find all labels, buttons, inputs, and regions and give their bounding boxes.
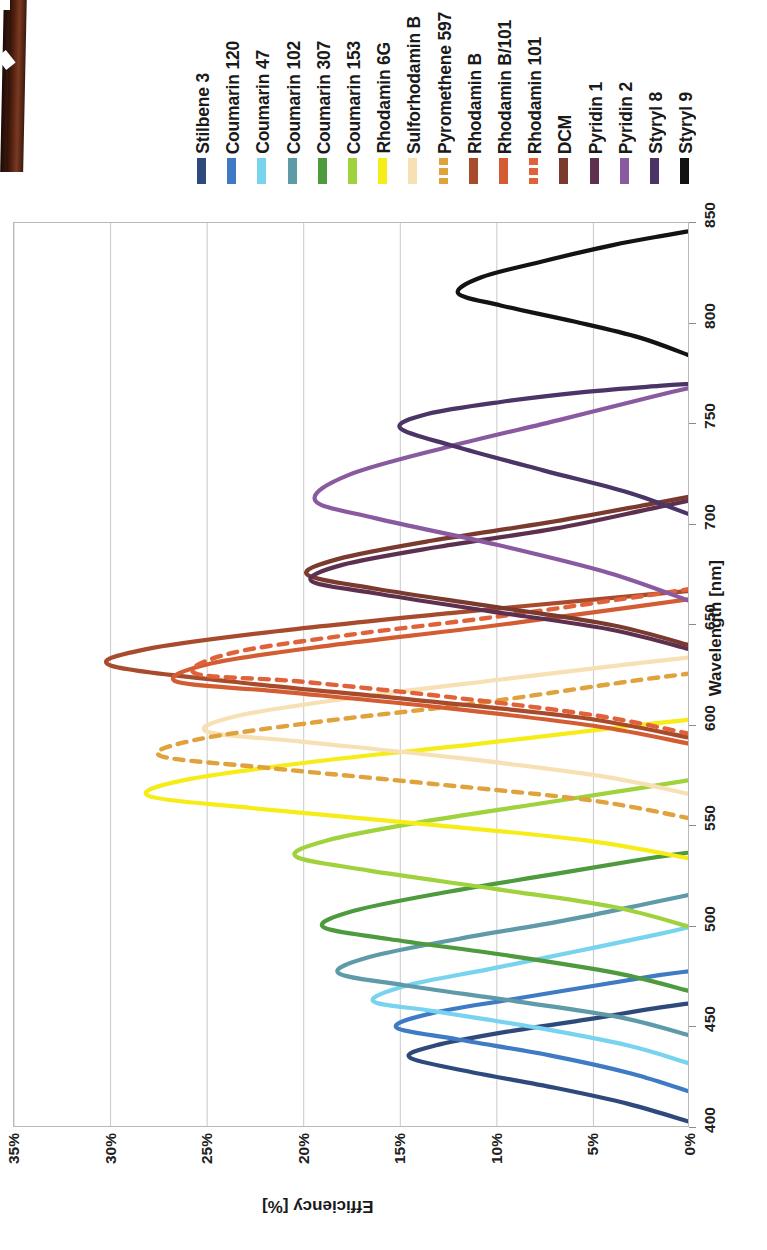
legend-swatch-dash	[439, 168, 448, 175]
series-line	[310, 501, 689, 650]
legend-label: Coumarin 153	[339, 41, 369, 154]
legend-item[interactable]: DCM	[550, 0, 580, 190]
y-axis-tick-label: 10%	[488, 1133, 506, 1164]
legend-color-swatch	[288, 158, 297, 184]
legend-item[interactable]: Pyridin 1	[581, 0, 611, 190]
x-axis-tick-label: 500	[701, 906, 719, 932]
legend-label: Stilbene 3	[188, 73, 218, 154]
legend-color-swatch	[590, 158, 599, 184]
legend-label: Rhodamin B/101	[490, 20, 520, 154]
legend-color-swatch	[408, 158, 417, 184]
legend-color-swatch	[469, 158, 478, 184]
x-axis-tick-label: 450	[701, 1006, 719, 1032]
y-axis-tick-label: 5%	[584, 1133, 602, 1155]
x-axis-tick-label: 700	[701, 504, 719, 530]
y-axis-tick-label: 20%	[295, 1133, 313, 1164]
legend-color-swatch	[529, 158, 538, 184]
legend-item[interactable]: Coumarin 102	[279, 0, 309, 190]
legend-label: Coumarin 307	[309, 41, 339, 154]
x-axis-tick-label: 650	[701, 604, 719, 630]
legend-item[interactable]: Coumarin 47	[248, 0, 278, 190]
legend-label: Rhodamin 6G	[369, 42, 399, 154]
legend-item[interactable]: Coumarin 307	[309, 0, 339, 190]
legend-item[interactable]: Sulforhodamin B	[399, 0, 429, 190]
x-axis-tick-mark	[689, 423, 696, 424]
legend-label: Coumarin 102	[279, 41, 309, 154]
legend-color-swatch	[197, 158, 206, 184]
legend-swatch-dash	[529, 178, 538, 184]
x-axis-tick-label: 400	[701, 1107, 719, 1133]
x-axis-tick-mark	[689, 1026, 696, 1027]
x-axis-tick-mark	[689, 624, 696, 625]
legend-label: Coumarin 120	[218, 41, 248, 154]
plot-svg	[14, 223, 689, 1127]
legend-item[interactable]: Rhodamin 101	[520, 0, 550, 190]
legend-item[interactable]: Styryl 8	[641, 0, 671, 190]
legend-color-swatch	[680, 158, 689, 184]
x-axis-tick-label: 850	[701, 202, 719, 228]
series-line	[146, 720, 689, 859]
scan-edge-artifact	[0, 0, 46, 172]
legend-label: Styryl 8	[641, 92, 671, 154]
x-axis-tick-mark	[689, 926, 696, 927]
legend-label: Rhodamin 101	[520, 37, 550, 154]
legend-item[interactable]: Rhodamin 6G	[369, 0, 399, 190]
legend-item[interactable]: Rhodamin B/101	[490, 0, 520, 190]
legend-color-swatch	[227, 158, 236, 184]
y-axis-tick-label: 35%	[5, 1133, 23, 1164]
x-axis-tick-mark	[689, 524, 696, 525]
legend-label: Rhodamin B	[460, 53, 490, 154]
legend-color-swatch	[559, 158, 568, 184]
scan-artifact-band	[6, 0, 27, 172]
legend-color-swatch	[650, 158, 659, 184]
legend-label: Coumarin 47	[248, 50, 278, 154]
legend-color-swatch	[348, 158, 357, 184]
y-axis-tick-label: 25%	[198, 1133, 216, 1164]
legend-item[interactable]: Coumarin 120	[218, 0, 248, 190]
legend-color-swatch	[499, 158, 508, 184]
legend-color-swatch	[257, 158, 266, 184]
legend-item[interactable]: Coumarin 153	[339, 0, 369, 190]
scan-artifact-corner	[0, 0, 10, 10]
legend-swatch-dash	[439, 178, 448, 184]
x-axis-tick-label: 750	[701, 403, 719, 429]
x-axis-tick-label: 800	[701, 303, 719, 329]
x-axis-tick-mark	[689, 725, 696, 726]
x-axis-tick-mark	[689, 323, 696, 324]
legend-item[interactable]: Pyromethene 597	[430, 0, 460, 190]
x-axis-tick-mark	[689, 825, 696, 826]
y-axis-tick-label: 30%	[102, 1133, 120, 1164]
chart-legend: Stilbene 3Coumarin 120Coumarin 47Coumari…	[188, 0, 708, 190]
x-axis-tick-mark	[689, 222, 696, 223]
legend-color-swatch	[620, 158, 629, 184]
y-axis-tick-label: 15%	[391, 1133, 409, 1164]
legend-item[interactable]: Pyridin 2	[611, 0, 641, 190]
series-line	[157, 673, 689, 818]
y-axis-title: Efficiency [%]	[262, 1196, 373, 1216]
x-axis-tick-mark	[689, 1127, 696, 1128]
legend-color-swatch	[439, 158, 448, 184]
legend-swatch-dash	[529, 158, 538, 165]
legend-color-swatch	[378, 158, 387, 184]
legend-label: Pyridin 2	[611, 82, 641, 154]
series-line	[294, 780, 689, 927]
x-axis-tick-label: 550	[701, 805, 719, 831]
legend-item[interactable]: Rhodamin B	[460, 0, 490, 190]
legend-label: Styryl 9	[671, 92, 701, 154]
legend-label: Sulforhodamin B	[399, 16, 429, 154]
legend-color-swatch	[318, 158, 327, 184]
legend-swatch-dash	[529, 168, 538, 175]
legend-item[interactable]: Styryl 9	[671, 0, 701, 190]
legend-item[interactable]: Stilbene 3	[188, 0, 218, 190]
legend-label: Pyridin 1	[581, 82, 611, 154]
x-axis-tick-label: 600	[701, 705, 719, 731]
y-axis-tick-label: 0%	[681, 1133, 699, 1155]
series-line	[409, 1003, 689, 1122]
legend-label: DCM	[550, 115, 580, 154]
legend-label: Pyromethene 597	[430, 12, 460, 154]
series-line	[458, 231, 689, 356]
plot-area	[13, 222, 689, 1127]
legend-swatch-dash	[439, 158, 448, 165]
